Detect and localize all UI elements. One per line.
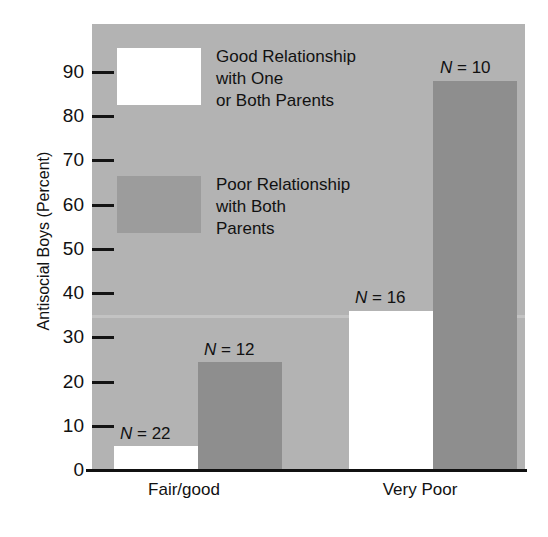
- y-tick-90: [92, 71, 114, 74]
- y-tick-label-0: 0: [44, 459, 84, 481]
- y-tick-10: [92, 425, 114, 428]
- y-tick-40: [92, 292, 114, 295]
- legend-label-poor-relationship: Poor Relationship with Both Parents: [216, 174, 350, 240]
- chart-figure: Good Relationship with One or Both Paren…: [0, 0, 548, 537]
- x-category-label-verypoor: Very Poor: [340, 480, 500, 500]
- plot-area: Good Relationship with One or Both Paren…: [92, 24, 525, 470]
- x-axis-line: [86, 469, 527, 472]
- n-label-fairgood-poor-relationship: N = 12: [204, 340, 255, 360]
- n-label-fairgood-good-relationship: N = 22: [120, 424, 171, 444]
- legend-label-good-relationship: Good Relationship with One or Both Paren…: [216, 46, 356, 112]
- y-tick-label-10: 10: [44, 415, 84, 437]
- bar-verypoor-good-relationship: [349, 311, 433, 470]
- y-tick-60: [92, 204, 114, 207]
- n-label-verypoor-good-relationship: N = 16: [355, 288, 406, 308]
- y-tick-30: [92, 336, 114, 339]
- legend-swatch-good-relationship: [117, 48, 201, 105]
- y-tick-80: [92, 115, 114, 118]
- y-tick-70: [92, 159, 114, 162]
- bar-fairgood-good-relationship: [114, 446, 198, 470]
- y-tick-20: [92, 381, 114, 384]
- y-tick-label-90: 90: [44, 61, 84, 83]
- n-label-verypoor-poor-relationship: N = 10: [440, 58, 491, 78]
- y-axis-title: Antisocial Boys (Percent): [35, 111, 53, 371]
- legend-swatch-poor-relationship: [117, 176, 201, 233]
- x-category-label-fairgood: Fair/good: [104, 480, 264, 500]
- y-tick-50: [92, 248, 114, 251]
- bar-fairgood-poor-relationship: [198, 362, 282, 470]
- bar-verypoor-poor-relationship: [433, 81, 517, 470]
- y-tick-label-20: 20: [44, 371, 84, 393]
